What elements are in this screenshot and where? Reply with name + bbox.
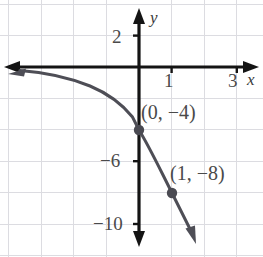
x-tick-label-3: 3 (228, 71, 238, 90)
x-axis-label: x (247, 71, 255, 88)
point-marker-0-neg4[interactable] (134, 125, 144, 135)
point-label-1-neg8: (1, −8) (170, 163, 225, 183)
exponential-decay-graph: 2 −6 −10 1 3 x y (0, −4) (1, −8) (0, 0, 263, 257)
y-tick-label-neg6: −6 (100, 151, 120, 170)
y-tick-label-neg10: −10 (93, 214, 123, 233)
y-axis-arrow-down (133, 231, 145, 247)
point-label-0-neg4: (0, −4) (141, 102, 196, 122)
x-tick-label-1: 1 (164, 71, 174, 90)
y-axis-arrow-up (133, 8, 145, 24)
y-axis-label: y (150, 9, 158, 26)
curve-arrow-right (186, 226, 197, 245)
plot-canvas (0, 0, 263, 257)
x-axis (4, 61, 259, 73)
point-marker-1-neg8[interactable] (167, 188, 177, 198)
y-tick-label-2: 2 (112, 27, 122, 46)
grid-lines (0, 0, 263, 257)
